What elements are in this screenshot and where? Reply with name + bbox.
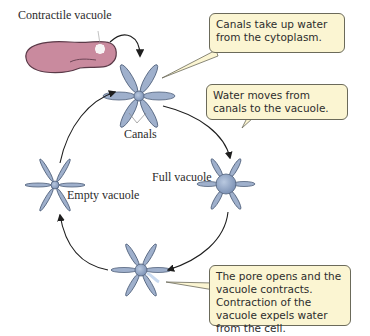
full-vacuole-label: Full vacuole	[152, 170, 212, 185]
callout-pointer	[166, 282, 214, 290]
callout-canals-take-up-water: Canals take up water from the cytoplasm.	[209, 13, 345, 53]
vacuole-canals-icon	[103, 63, 175, 129]
empty-vacuole-icon	[25, 158, 85, 212]
empty-vacuole-label: Empty vacuole	[67, 188, 139, 203]
arrow-icon	[168, 212, 228, 270]
callout-pointer	[162, 50, 218, 78]
contractile-vacuole-label: Contractile vacuole	[18, 8, 112, 23]
callout-water-moves-to-vacuole: Water moves from canals to the vacuole.	[206, 84, 348, 120]
arrow-icon	[60, 215, 108, 270]
contracting-vacuole-icon	[111, 243, 171, 297]
paramecium-cell-icon	[26, 41, 116, 72]
callout-pore-opens-contracts: The pore opens and the vacuole contracts…	[209, 265, 351, 326]
canals-label: Canals	[124, 127, 157, 142]
arrow-icon	[60, 92, 115, 163]
